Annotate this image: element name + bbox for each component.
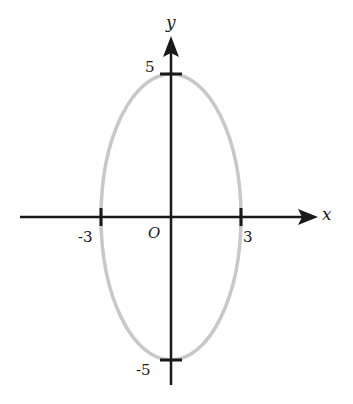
diagram-canvas — [0, 0, 353, 404]
tick-label-x-neg: -3 — [78, 230, 93, 245]
tick-label-x-pos: 3 — [243, 230, 253, 245]
tick-label-y-pos: 5 — [145, 60, 155, 75]
origin-label: O — [148, 226, 160, 241]
y-axis-label: y — [166, 14, 176, 31]
x-axis-label: x — [322, 206, 332, 223]
tick-label-y-neg: -5 — [136, 363, 151, 378]
ellipse-diagram: y x O -3 3 5 -5 — [0, 0, 353, 404]
